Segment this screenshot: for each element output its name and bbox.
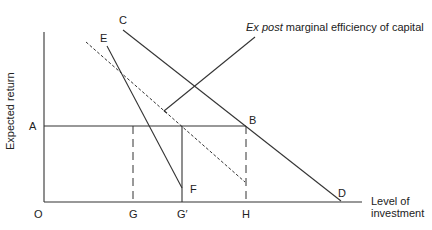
x-axis-label-line2: investment (371, 207, 424, 219)
tick-label-g-prime: G′ (177, 208, 188, 220)
point-label-e: E (100, 32, 107, 44)
tick-label-h: H (242, 208, 250, 220)
ex-post-italic: Ex post (246, 21, 283, 33)
ex-post-mec-line (164, 37, 255, 111)
point-label-a: A (29, 120, 36, 132)
ex-post-rest: marginal efficiency of capital (283, 21, 424, 33)
ex-post-mec-label: Ex post marginal efficiency of capital (246, 21, 424, 33)
point-label-c: C (119, 14, 127, 26)
ex-post-mec-tick (164, 111, 167, 113)
point-label-d: D (338, 187, 346, 199)
x-axis-label-line1: Level of (371, 195, 410, 207)
tick-label-g: G (129, 208, 138, 220)
point-label-b: B (249, 114, 256, 126)
origin-label: O (34, 208, 43, 220)
y-axis-label: Expected return (4, 72, 16, 150)
point-label-f: F (190, 183, 197, 195)
diagram-canvas (0, 0, 432, 230)
